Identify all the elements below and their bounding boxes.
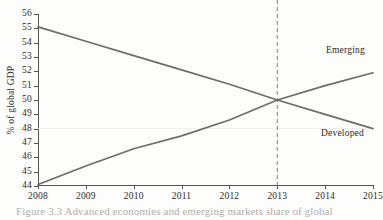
x-tick-label: 2014 <box>315 192 335 202</box>
y-tick-label: 46 <box>22 153 32 163</box>
x-tick-label: 2009 <box>76 192 96 202</box>
x-tick-label: 2015 <box>363 192 383 202</box>
plot-area: 44454647484950515253545556 2008200920102… <box>38 14 373 186</box>
y-tick-label: 44 <box>22 181 32 191</box>
y-tick-label: 56 <box>22 9 32 19</box>
y-tick-label: 53 <box>22 52 32 62</box>
x-tick-label: 2011 <box>172 192 191 202</box>
y-tick-label: 45 <box>22 167 32 177</box>
x-tick-label: 2012 <box>220 192 240 202</box>
series-label-developed: Developed <box>321 129 364 139</box>
x-tick-mark <box>373 185 374 189</box>
chart-plot-svg <box>38 14 373 186</box>
y-tick-label: 52 <box>22 67 32 77</box>
y-axis-title: % of global GDP <box>6 66 16 135</box>
series-label-emerging: Emerging <box>326 46 365 56</box>
y-tick-label: 51 <box>22 81 32 91</box>
x-tick-label: 2008 <box>28 192 48 202</box>
series-line-developed <box>38 27 373 129</box>
y-tick-label: 47 <box>22 138 32 148</box>
y-tick-label: 50 <box>22 95 32 105</box>
x-tick-label: 2010 <box>124 192 144 202</box>
figure-caption: Figure 3.3 Advanced economies and emergi… <box>16 205 372 218</box>
data-series <box>38 27 373 185</box>
x-tick-label: 2013 <box>267 192 287 202</box>
y-tick-label: 55 <box>22 24 32 34</box>
y-tick-label: 49 <box>22 110 32 120</box>
y-tick-label: 48 <box>22 124 32 134</box>
y-tick-label: 54 <box>22 38 32 48</box>
